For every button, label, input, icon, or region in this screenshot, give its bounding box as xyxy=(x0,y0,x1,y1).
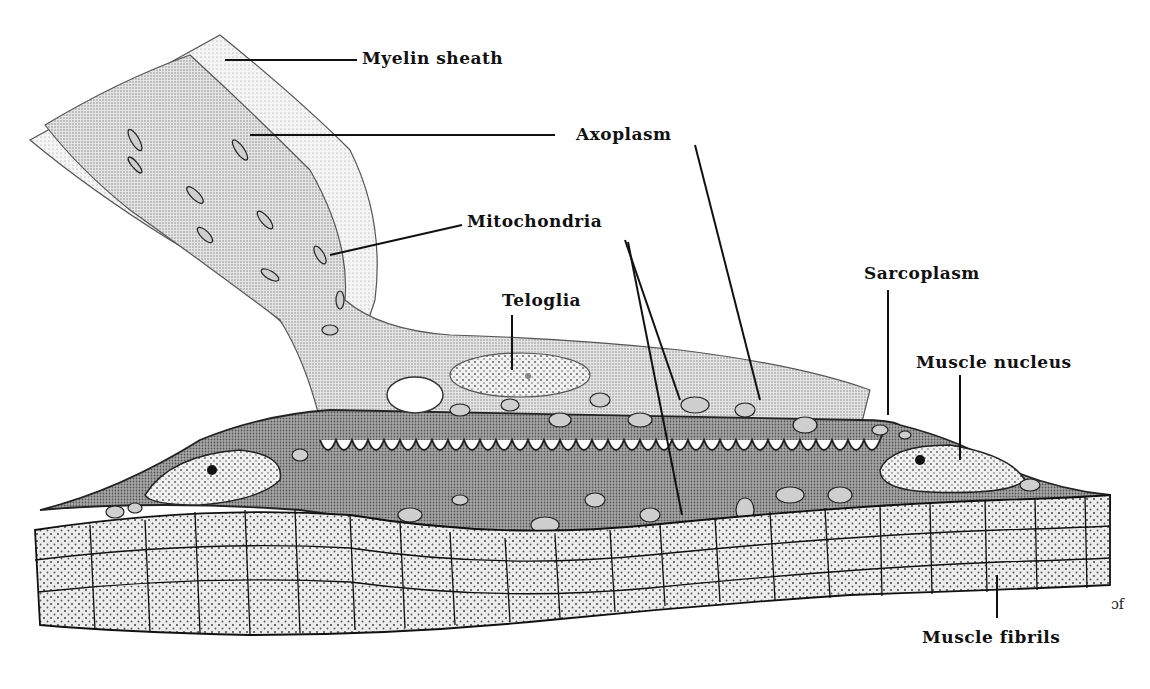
label-axoplasm: Axoplasm xyxy=(576,124,672,144)
axon-shape xyxy=(45,55,870,445)
label-myelin-sheath: Myelin sheath xyxy=(362,48,503,68)
axon-vacuole xyxy=(387,377,443,413)
label-sarcoplasm: Sarcoplasm xyxy=(864,263,980,283)
label-muscle-fibrils: Muscle fibrils xyxy=(922,627,1060,647)
muscle-nucleus-right xyxy=(880,445,1025,493)
label-mitochondria: Mitochondria xyxy=(467,211,602,231)
teloglia-cell xyxy=(450,353,590,397)
artist-signature: ɔf xyxy=(1111,596,1124,612)
label-teloglia: Teloglia xyxy=(502,290,581,310)
neuromuscular-junction-diagram xyxy=(0,0,1150,689)
label-muscle-nucleus: Muscle nucleus xyxy=(916,352,1072,372)
